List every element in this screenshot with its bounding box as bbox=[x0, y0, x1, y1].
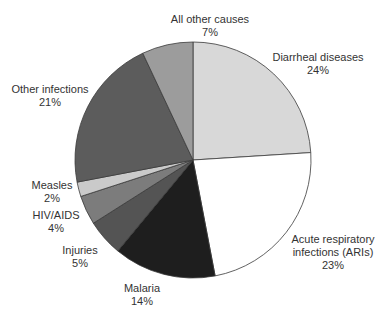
label-value: 21% bbox=[0, 96, 100, 109]
label-text: All other causes bbox=[150, 13, 270, 26]
label-other-infections: Other infections 21% bbox=[0, 83, 100, 109]
label-malaria: Malaria 14% bbox=[112, 282, 172, 308]
pie-chart: All other causes 7% Diarrheal diseases 2… bbox=[0, 0, 380, 319]
label-text: Injuries bbox=[50, 244, 110, 257]
label-diarrheal-diseases: Diarrheal diseases 24% bbox=[258, 51, 378, 77]
label-text: HIV/AIDS bbox=[24, 209, 88, 222]
label-text: Measles bbox=[20, 179, 84, 192]
label-text: Acute respiratory bbox=[280, 233, 380, 246]
label-aris: Acute respiratory infections (ARIs) 23% bbox=[280, 233, 380, 272]
label-value: 7% bbox=[150, 26, 270, 39]
label-text: Other infections bbox=[0, 83, 100, 96]
label-injuries: Injuries 5% bbox=[50, 244, 110, 270]
label-value: 24% bbox=[258, 64, 378, 77]
label-hiv-aids: HIV/AIDS 4% bbox=[24, 209, 88, 235]
label-measles: Measles 2% bbox=[20, 179, 84, 205]
label-value: 23% bbox=[280, 259, 380, 272]
label-value: 5% bbox=[50, 257, 110, 270]
label-value: 2% bbox=[20, 192, 84, 205]
label-text: infections (ARIs) bbox=[280, 246, 380, 259]
label-all-other-causes: All other causes 7% bbox=[150, 13, 270, 39]
label-text: Malaria bbox=[112, 282, 172, 295]
label-text: Diarrheal diseases bbox=[258, 51, 378, 64]
label-value: 4% bbox=[24, 222, 88, 235]
label-value: 14% bbox=[112, 295, 172, 308]
